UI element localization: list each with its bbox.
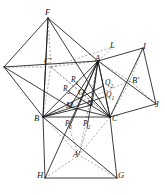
vertex-label-A: A — [95, 54, 100, 63]
vertex-label-H: H — [37, 171, 43, 180]
dashed-edge-G-Ap — [79, 155, 117, 178]
vertex-label-F: F — [45, 8, 50, 17]
dashed-edge-Cp-A — [51, 61, 98, 67]
figure-canvas — [0, 0, 165, 195]
solid-edge-G-C — [110, 117, 117, 178]
vertex-label-N: N — [87, 99, 93, 108]
geometry-figure: FC′LIAB′JR1R2Q2Q1OMNBP1P2CA′HG — [0, 0, 165, 195]
solid-edge-E-M — [4, 67, 70, 107]
vertex-label-L: L — [110, 41, 115, 50]
solid-edge-F-B — [43, 18, 48, 117]
vertex-label-Q1: Q1 — [106, 91, 114, 101]
solid-edge-F-A — [48, 18, 98, 61]
vertex-label-M: M — [66, 101, 73, 110]
vertex-label-B: B — [34, 114, 39, 123]
dashed-edge-Ap-P2 — [79, 128, 87, 155]
vertex-label-R2: R2 — [63, 85, 70, 95]
vertex-label-P2: P2 — [83, 120, 90, 130]
vertex-label-I: I — [143, 42, 146, 51]
vertex-label-G: G — [118, 171, 124, 180]
solid-edge-B-G — [43, 117, 117, 178]
solid-edge-B-H — [43, 117, 45, 178]
vertex-label-P1: P1 — [65, 120, 72, 130]
solid-edge-B-Q1 — [43, 97, 104, 117]
vertex-label-O: O — [78, 88, 84, 97]
solid-edge-F-E — [4, 18, 48, 67]
vertex-label-Ap: A′ — [73, 150, 80, 159]
vertex-label-C: C — [112, 114, 118, 123]
vertex-label-Bp: B′ — [132, 76, 139, 85]
vertex-label-J: J — [155, 100, 159, 109]
vertex-label-Cp: C′ — [44, 57, 52, 66]
vertex-label-R1: R1 — [71, 76, 78, 86]
dashed-edge-A-Bp — [98, 61, 130, 81]
vertex-label-Q2: Q2 — [105, 79, 113, 89]
solid-edge-E-B — [4, 67, 43, 117]
dashed-edge-Cp-L — [51, 47, 113, 67]
